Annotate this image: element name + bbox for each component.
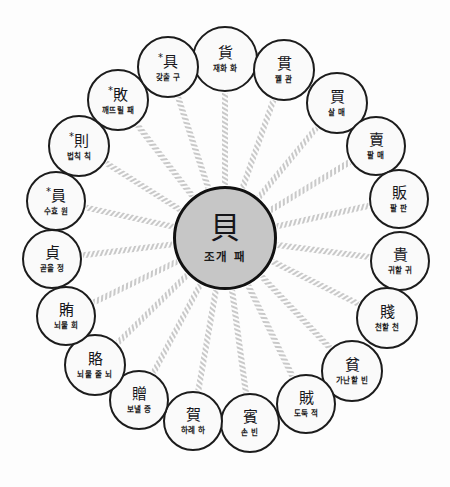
node-hanja-glyph: 賀 xyxy=(186,408,201,423)
node-hanja-glyph: 賂 xyxy=(88,352,103,367)
outer-node-character-4[interactable]: 販팔 판 xyxy=(369,169,429,229)
node-hanja-glyph: 販 xyxy=(392,186,407,201)
node-gloss-label: 팔 매 xyxy=(367,152,385,160)
hanja-text: 賣 xyxy=(369,131,384,149)
node-gloss-label: 살 매 xyxy=(328,109,346,117)
node-gloss-label: 천할 천 xyxy=(375,324,400,332)
node-hanja-glyph: 貧 xyxy=(345,358,360,373)
node-hanja-glyph: *則 xyxy=(69,132,89,149)
spoke-line xyxy=(175,96,211,188)
hanja-text: 賀 xyxy=(186,406,201,424)
hanja-text: 則 xyxy=(74,132,89,150)
node-gloss-label: 꿸 관 xyxy=(275,76,293,84)
spoke-line xyxy=(222,93,228,185)
node-hanja-glyph: 賄 xyxy=(59,303,74,318)
node-hanja-glyph: 賊 xyxy=(299,391,314,406)
node-gloss-label: 갖출 구 xyxy=(156,74,181,82)
node-hanja-glyph: 貞 xyxy=(45,246,60,261)
node-hanja-glyph: 貫 xyxy=(277,57,292,72)
node-hanja-glyph: 賤 xyxy=(380,305,395,320)
hanja-text: 賤 xyxy=(380,303,395,321)
outer-node-character-6[interactable]: 賤천할 천 xyxy=(356,287,418,349)
spoke-line xyxy=(240,99,276,189)
hanja-text: 買 xyxy=(330,88,345,106)
node-gloss-label: 재화 화 xyxy=(213,65,238,73)
outer-node-character-10[interactable]: 賀하례 하 xyxy=(163,391,223,451)
node-gloss-label: 손 빈 xyxy=(241,429,259,437)
node-hanja-glyph: *員 xyxy=(46,187,66,204)
spoke-line xyxy=(229,290,249,393)
hanja-text: 具 xyxy=(163,53,178,71)
outer-node-character-3[interactable]: 賣팔 매 xyxy=(346,116,406,176)
spoke-line xyxy=(151,283,203,374)
hanja-text: 賓 xyxy=(243,408,258,426)
hanja-text: 賄 xyxy=(59,301,74,319)
node-hanja-glyph: 賣 xyxy=(369,133,384,148)
node-gloss-label: 뇌물 회 xyxy=(54,322,79,330)
node-gloss-label: 보낼 증 xyxy=(127,406,152,414)
node-hanja-glyph: 賓 xyxy=(243,410,258,425)
hanja-text: 貫 xyxy=(277,55,292,73)
node-gloss-label: 법칙 칙 xyxy=(67,153,92,161)
outer-node-character-13[interactable]: 賄뇌물 회 xyxy=(36,286,96,346)
spoke-line xyxy=(276,203,369,229)
outer-node-character-5[interactable]: 貴귀할 귀 xyxy=(370,231,430,291)
node-gloss-label: 곧을 정 xyxy=(40,265,65,273)
outer-node-character-8[interactable]: 賊도둑 적 xyxy=(276,374,336,434)
node-gloss-label: 가난할 빈 xyxy=(336,377,368,385)
spoke-line xyxy=(82,241,172,258)
outer-node-character-18[interactable]: *具갖출 구 xyxy=(137,36,199,98)
center-hanja-glyph: 貝 xyxy=(210,213,240,243)
node-gloss-label: 하례 하 xyxy=(181,427,206,435)
node-gloss-label: 깨뜨릴 패 xyxy=(102,107,134,115)
node-gloss-label: 팔 판 xyxy=(390,205,408,213)
node-hanja-glyph: *具 xyxy=(158,53,178,70)
outer-node-character-1[interactable]: 貫꿸 관 xyxy=(253,39,315,101)
spoke-line xyxy=(246,284,296,377)
hanja-text: 員 xyxy=(51,187,66,205)
hanja-text: 貞 xyxy=(45,244,60,262)
hanja-text: 貴 xyxy=(393,246,408,264)
center-node-character[interactable]: 貝조개 패 xyxy=(173,186,277,290)
node-gloss-label: 뇌물 줄 뇌 xyxy=(77,371,112,379)
node-hanja-glyph: 貴 xyxy=(393,248,408,263)
center-gloss-label: 조개 패 xyxy=(204,252,246,264)
node-gloss-label: 수효 원 xyxy=(44,208,69,216)
radial-diagram: 貨재화 화貫꿸 관買살 매賣팔 매販팔 판貴귀할 귀賤천할 천貧가난할 빈賊도둑… xyxy=(0,0,450,487)
node-hanja-glyph: 贈 xyxy=(132,387,147,402)
spoke-line xyxy=(86,205,174,230)
outer-node-character-15[interactable]: *員수효 원 xyxy=(26,171,86,231)
node-hanja-glyph: 買 xyxy=(330,90,345,105)
outer-node-character-14[interactable]: 貞곧을 정 xyxy=(22,229,82,289)
node-gloss-label: 귀할 귀 xyxy=(388,267,413,275)
spoke-line xyxy=(195,290,218,391)
hanja-text: 販 xyxy=(392,184,407,202)
hanja-text: 贈 xyxy=(132,385,147,403)
hanja-text: 賊 xyxy=(299,389,314,407)
spoke-line xyxy=(277,242,369,260)
outer-node-character-0[interactable]: 貨재화 화 xyxy=(192,26,258,92)
hanja-text: 貨 xyxy=(218,44,233,62)
hanja-text: 貧 xyxy=(345,356,360,374)
node-hanja-glyph: *敗 xyxy=(108,86,128,103)
hanja-text: 敗 xyxy=(113,86,128,104)
node-hanja-glyph: 貨 xyxy=(218,46,233,61)
hanja-text: 貝 xyxy=(210,210,240,245)
hanja-text: 賂 xyxy=(88,350,103,368)
node-gloss-label: 도둑 적 xyxy=(294,410,319,418)
outer-node-character-9[interactable]: 賓손 빈 xyxy=(220,393,280,453)
